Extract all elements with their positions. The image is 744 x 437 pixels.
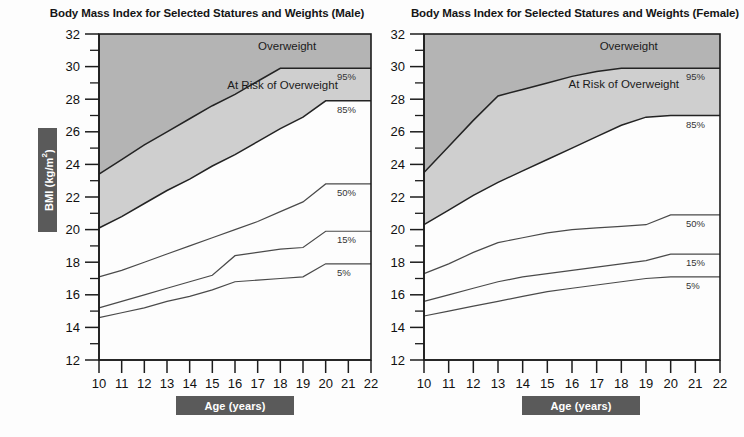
percentile-label-5: 5%	[686, 280, 700, 291]
x-tick-label-14: 14	[515, 376, 529, 391]
x-tick-label-17: 17	[250, 376, 264, 391]
y-tick-label-14: 14	[391, 320, 405, 335]
x-axis-label-badge-female: Age (years)	[522, 396, 640, 415]
y-tick-label-18: 18	[391, 255, 405, 270]
y-tick-label-26: 26	[66, 124, 80, 139]
chart-svg-female: 1214161820222426283032101112131415161718…	[378, 0, 744, 437]
percentile-label-95: 95%	[686, 71, 706, 82]
x-tick-label-14: 14	[182, 376, 196, 391]
y-tick-label-30: 30	[66, 59, 80, 74]
x-tick-label-12: 12	[137, 376, 151, 391]
x-tick-label-21: 21	[341, 376, 355, 391]
x-tick-label-17: 17	[589, 376, 603, 391]
x-tick-label-19: 19	[296, 376, 310, 391]
percentile-curve-5	[424, 277, 720, 316]
chart-panel-female: Body Mass Index for Selected Statures an…	[378, 0, 744, 437]
percentile-labels: 95%85%50%15%5%	[337, 71, 357, 278]
percentile-curve-15	[424, 254, 720, 301]
y-axis-exponent: 2	[40, 153, 49, 158]
y-tick-label-24: 24	[66, 157, 80, 172]
y-axis: 1214161820222426283032	[66, 27, 99, 368]
percentile-label-85: 85%	[337, 104, 357, 115]
x-axis-label-text-female: Age (years)	[550, 400, 611, 412]
percentile-curve-5	[99, 264, 371, 318]
x-tick-label-19: 19	[639, 376, 653, 391]
y-tick-label-32: 32	[391, 27, 405, 42]
x-tick-label-12: 12	[466, 376, 480, 391]
x-tick-label-20: 20	[318, 376, 332, 391]
y-tick-label-26: 26	[391, 124, 405, 139]
x-tick-label-13: 13	[491, 376, 505, 391]
y-tick-label-28: 28	[66, 92, 80, 107]
y-tick-label-32: 32	[66, 27, 80, 42]
x-axis-label-text-male: Age (years)	[204, 400, 265, 412]
y-tick-label-20: 20	[66, 222, 80, 237]
y-tick-label-12: 12	[66, 353, 80, 368]
zone-label-overweight: Overweight	[258, 40, 317, 52]
x-tick-label-11: 11	[115, 376, 129, 391]
x-axis: 10111213141516171819202122	[92, 360, 378, 391]
x-tick-label-18: 18	[614, 376, 628, 391]
y-tick-label-30: 30	[391, 59, 405, 74]
shaded-bands	[99, 34, 371, 228]
zone-label-overweight: Overweight	[600, 40, 659, 52]
percentile-label-95: 95%	[337, 71, 357, 82]
y-tick-label-18: 18	[66, 255, 80, 270]
x-tick-label-21: 21	[688, 376, 702, 391]
y-tick-label-28: 28	[391, 92, 405, 107]
x-tick-label-15: 15	[205, 376, 219, 391]
shaded-bands	[424, 34, 720, 225]
x-tick-label-11: 11	[442, 376, 456, 391]
y-tick-label-20: 20	[391, 222, 405, 237]
x-tick-label-16: 16	[228, 376, 242, 391]
y-tick-label-16: 16	[391, 287, 405, 302]
x-tick-label-10: 10	[417, 376, 431, 391]
y-tick-label-22: 22	[391, 190, 405, 205]
percentile-curve-15	[99, 231, 371, 308]
y-tick-label-22: 22	[66, 190, 80, 205]
y-tick-label-16: 16	[66, 287, 80, 302]
y-axis-label-text: BMI (kg/m2)	[40, 149, 56, 211]
percentile-curve-50	[424, 215, 720, 274]
y-tick-label-12: 12	[391, 353, 405, 368]
x-tick-label-20: 20	[663, 376, 677, 391]
x-tick-label-22: 22	[713, 376, 727, 391]
y-axis: 1214161820222426283032	[391, 27, 424, 368]
x-tick-label-16: 16	[565, 376, 579, 391]
y-tick-label-14: 14	[66, 320, 80, 335]
y-axis-label-badge: BMI (kg/m2)	[38, 128, 57, 232]
bmi-chart-page: Body Mass Index for Selected Statures an…	[0, 0, 744, 437]
percentile-label-50: 50%	[686, 218, 706, 229]
percentile-label-50: 50%	[337, 187, 357, 198]
percentile-label-5: 5%	[337, 267, 351, 278]
zone-label-at-risk-of-overweight: At Risk of Overweight	[227, 79, 338, 91]
x-axis: 10111213141516171819202122	[417, 360, 727, 391]
x-axis-label-badge-male: Age (years)	[176, 396, 294, 415]
y-tick-label-24: 24	[391, 157, 405, 172]
percentile-label-85: 85%	[686, 119, 706, 130]
x-tick-label-10: 10	[92, 376, 106, 391]
percentile-label-15: 15%	[686, 257, 706, 268]
x-tick-label-15: 15	[540, 376, 554, 391]
percentile-label-15: 15%	[337, 234, 357, 245]
x-tick-label-13: 13	[160, 376, 174, 391]
zone-label-at-risk-of-overweight: At Risk of Overweight	[569, 78, 680, 90]
x-tick-label-22: 22	[364, 376, 378, 391]
x-tick-label-18: 18	[273, 376, 287, 391]
